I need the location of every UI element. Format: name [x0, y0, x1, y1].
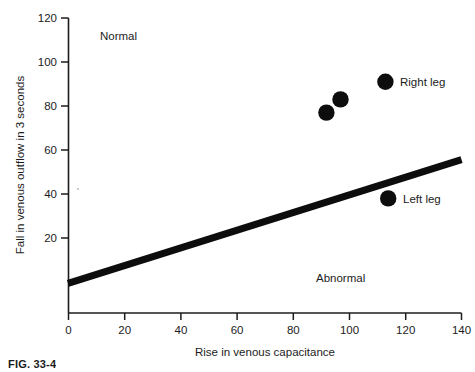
- figure-root: 120 100 80 60 40 20 0 20 40 60 80 100 12…: [0, 0, 475, 372]
- y-tick-label-120: 120: [38, 12, 57, 24]
- series-label-left-leg: Left leg: [403, 193, 441, 205]
- x-axis-ticks: [69, 313, 462, 320]
- y-tick-label-20: 20: [44, 232, 57, 244]
- y-tick-label-40: 40: [44, 188, 57, 200]
- y-axis-tick-labels: 120 100 80 60 40 20: [38, 12, 57, 244]
- x-axis-title: Rise in venous capacitance: [195, 346, 335, 358]
- x-tick-label-100: 100: [340, 324, 359, 336]
- y-axis-title: Fall in venous outflow in 3 seconds: [14, 76, 26, 255]
- x-tick-label-40: 40: [175, 324, 188, 336]
- data-point-unlabelled-2[interactable]: [332, 91, 348, 107]
- data-point-unlabelled-1[interactable]: [318, 104, 334, 120]
- x-tick-label-80: 80: [287, 324, 300, 336]
- data-point-right-leg[interactable]: [377, 74, 393, 90]
- y-axis-ticks: [61, 18, 69, 238]
- x-tick-label-140: 140: [452, 324, 471, 336]
- x-tick-label-60: 60: [231, 324, 244, 336]
- scan-speck: [77, 188, 79, 190]
- series-label-right-leg: Right leg: [400, 76, 445, 88]
- figure-caption: FIG. 33-4: [8, 358, 56, 372]
- zone-label-normal: Normal: [100, 30, 137, 42]
- x-tick-label-120: 120: [396, 324, 415, 336]
- x-tick-label-0: 0: [65, 324, 71, 336]
- threshold-line: [68, 160, 462, 284]
- chart-axes: [68, 18, 462, 313]
- y-tick-label-80: 80: [44, 100, 57, 112]
- x-axis-tick-labels: 0 20 40 60 80 100 120 140: [65, 324, 471, 336]
- data-point-left-leg[interactable]: [380, 190, 396, 206]
- y-tick-label-60: 60: [44, 144, 57, 156]
- scatter-chart: 120 100 80 60 40 20 0 20 40 60 80 100 12…: [0, 0, 475, 372]
- zone-label-abnormal: Abnormal: [316, 272, 365, 284]
- x-tick-label-20: 20: [118, 324, 131, 336]
- y-tick-label-100: 100: [38, 56, 57, 68]
